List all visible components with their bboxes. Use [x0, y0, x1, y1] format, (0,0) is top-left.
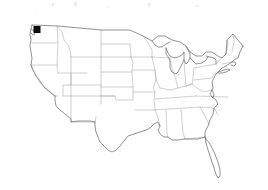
washington-state-marker[interactable] — [34, 26, 41, 33]
national-border-outline — [30, 25, 243, 178]
us-map-figure — [0, 0, 268, 190]
state-border-lines — [31, 26, 234, 139]
map-marker-layer — [34, 26, 41, 33]
united-states-map — [0, 0, 268, 190]
